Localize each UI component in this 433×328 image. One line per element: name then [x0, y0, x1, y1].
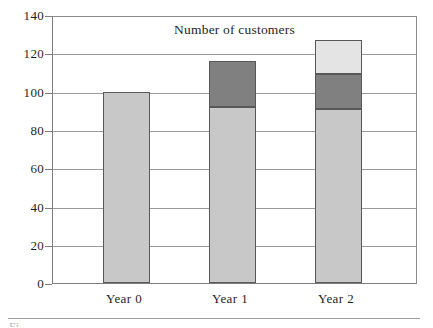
- plot-area: [52, 16, 417, 284]
- bar-stack-year-0[interactable]: [103, 92, 150, 283]
- chart-title: Number of customers: [52, 22, 417, 38]
- xtick-label-year-1: Year 1: [184, 292, 276, 306]
- tick-mark-20: [45, 246, 52, 247]
- tick-mark-120: [45, 54, 52, 55]
- bar-segment-year-2-middle[interactable]: [315, 74, 362, 109]
- ytick-label-40: 40: [0, 201, 44, 214]
- tick-mark-60: [45, 169, 52, 170]
- bar-stack-year-2[interactable]: [315, 40, 362, 283]
- bar-segment-year-0-base[interactable]: [103, 92, 150, 283]
- tick-mark-0: [45, 284, 52, 285]
- ytick-label-20: 20: [0, 239, 44, 252]
- bar-segment-year-1-middle[interactable]: [209, 61, 256, 107]
- tick-mark-140: [45, 16, 52, 17]
- tick-mark-100: [45, 93, 52, 94]
- ytick-label-120: 120: [0, 47, 44, 60]
- clipped-caption-glyph: Fi: [9, 321, 25, 327]
- horizontal-rule: [8, 318, 420, 319]
- xtick-label-year-2: Year 2: [290, 292, 382, 306]
- bar-segment-year-2-base[interactable]: [315, 109, 362, 283]
- figure-container: 140 120 100 80 60 40 20 0: [0, 0, 433, 328]
- ytick-label-0: 0: [0, 277, 44, 290]
- bar-segment-year-1-base[interactable]: [209, 107, 256, 283]
- tick-mark-80: [45, 131, 52, 132]
- ytick-label-140: 140: [0, 9, 44, 22]
- ytick-label-80: 80: [0, 124, 44, 137]
- bar-segment-year-2-top[interactable]: [315, 40, 362, 74]
- bar-stack-year-1[interactable]: [209, 61, 256, 283]
- tick-mark-40: [45, 208, 52, 209]
- xtick-label-year-0: Year 0: [78, 292, 170, 306]
- ytick-label-60: 60: [0, 162, 44, 175]
- ytick-label-100: 100: [0, 86, 44, 99]
